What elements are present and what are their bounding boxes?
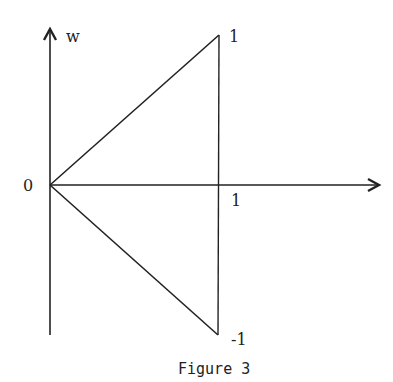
lower-line [50,185,218,335]
diagram-canvas: w 0 1 1 -1 Figure 3 [0,0,393,382]
x-tick-label: 1 [231,191,241,210]
bottom-tick-label: -1 [231,330,247,349]
figure-caption: Figure 3 [178,360,250,378]
y-axis-label: w [66,27,80,46]
figure-stage: w 0 1 1 -1 Figure 3 [0,0,393,382]
upper-line [50,35,219,185]
top-tick-label: 1 [229,27,239,46]
vertical-line [218,35,219,335]
origin-label: 0 [23,176,33,195]
